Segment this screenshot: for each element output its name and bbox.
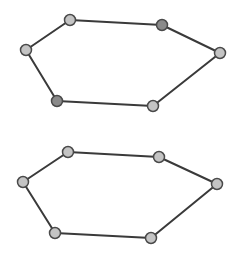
edge-b5-b6: [23, 182, 55, 233]
edge-t1-t2: [70, 20, 162, 25]
node-t5-dark: [52, 96, 63, 107]
top-hexagon: [21, 15, 226, 112]
edge-b3-b4: [151, 184, 217, 238]
node-t1-light: [65, 15, 76, 26]
edge-t4-t5: [57, 101, 153, 106]
edge-t5-t6: [26, 50, 57, 101]
node-b6-light: [18, 177, 29, 188]
node-t6-light: [21, 45, 32, 56]
node-t3-light: [215, 48, 226, 59]
edge-b4-b5: [55, 233, 151, 238]
edge-t3-t4: [153, 53, 220, 106]
edge-b2-b3: [159, 157, 217, 184]
node-b1-light: [63, 147, 74, 158]
edge-t6-t1: [26, 20, 70, 50]
edge-b6-b1: [23, 152, 68, 182]
diagram-canvas: [0, 0, 237, 259]
node-b4-light: [146, 233, 157, 244]
node-t2-dark: [157, 20, 168, 31]
node-t4-light: [148, 101, 159, 112]
edge-t2-t3: [162, 25, 220, 53]
node-b3-light: [212, 179, 223, 190]
node-b5-light: [50, 228, 61, 239]
node-b2-light: [154, 152, 165, 163]
bottom-hexagon: [18, 147, 223, 244]
graph-diagram: [0, 0, 237, 259]
edge-b1-b2: [68, 152, 159, 157]
